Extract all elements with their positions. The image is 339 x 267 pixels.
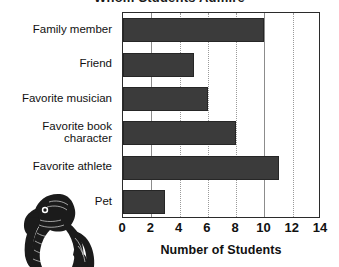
- x-tick-label: 2: [147, 220, 154, 236]
- bar: [123, 18, 264, 42]
- bar-series: [123, 13, 319, 217]
- category-label: Favorite athlete: [33, 160, 112, 173]
- category-label: Favorite book character: [42, 120, 112, 145]
- bar: [123, 53, 194, 77]
- bird-engraving-illustration: [16, 188, 102, 267]
- x-tick-label: 4: [175, 220, 182, 236]
- x-tick-label: 8: [232, 220, 239, 236]
- bar: [123, 190, 165, 214]
- bar: [123, 156, 279, 180]
- category-label: Favorite musician: [22, 92, 112, 105]
- plot-area: [122, 12, 320, 218]
- x-tick-label: 14: [313, 220, 327, 236]
- x-tick-label: 6: [203, 220, 210, 236]
- category-label: Friend: [79, 57, 112, 70]
- x-tick-label: 0: [118, 220, 125, 236]
- x-tick-label: 10: [256, 220, 270, 236]
- bar: [123, 121, 236, 145]
- bar-chart-figure: Whom Students Admire Family memberFriend…: [0, 0, 339, 267]
- bar: [123, 87, 208, 111]
- chart-title-text: Whom Students Admire: [0, 0, 339, 4]
- x-axis-tick-labels: 02468101214: [122, 220, 320, 238]
- category-label: Family member: [33, 23, 112, 36]
- chart-title-cropped: Whom Students Admire: [0, 0, 339, 9]
- x-tick-label: 12: [284, 220, 298, 236]
- x-axis-title: Number of Students: [122, 243, 320, 257]
